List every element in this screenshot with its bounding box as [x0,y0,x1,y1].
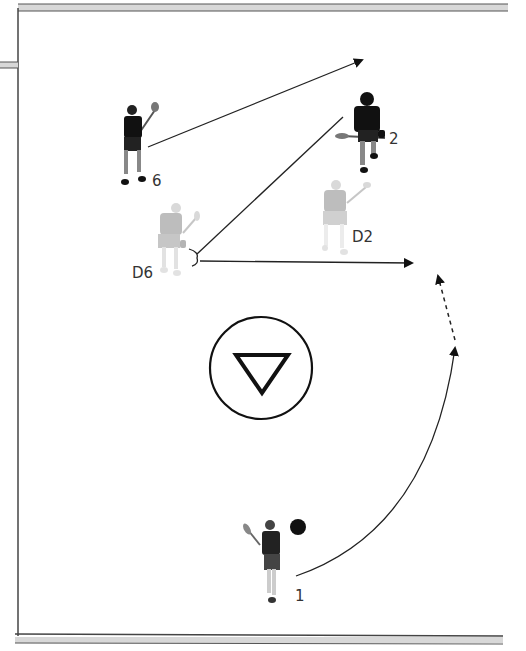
goal-triangle-icon [236,355,288,393]
bottom-boundary [15,634,503,644]
player-label-d2: D2 [352,228,373,246]
player-label-d6: D6 [132,264,153,282]
curve-arrow-1-run [296,348,455,576]
lacrosse-diagram: 6 2 D6 D2 [0,0,526,651]
player-label-1: 1 [295,587,305,605]
d6-stick-bracket [189,249,197,266]
ball [290,519,306,535]
player-label-6: 6 [152,172,162,190]
dashed-arrow-continuation [438,276,455,340]
left-stub [0,62,18,68]
top-boundary [18,4,508,11]
player-2 [335,92,385,173]
line-d6-to-2 [197,117,343,254]
player-label-2: 2 [389,130,399,148]
arrow-d6-right [200,261,412,263]
goal-crease [210,317,312,419]
player-1 [241,520,280,603]
pass-arrow-6-to-topright [148,60,362,147]
